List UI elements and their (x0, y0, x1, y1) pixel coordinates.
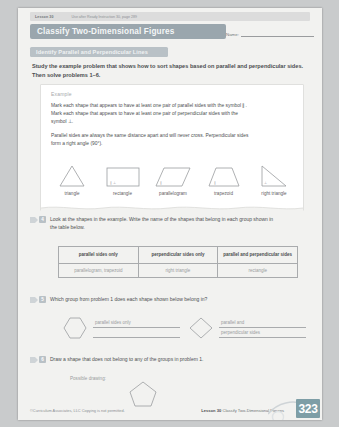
shape-trapezoid: ∥ trapezoid (201, 163, 247, 196)
chevron-right-icon (30, 217, 39, 224)
problem-4-text: Look at the shapes in the example. Write… (50, 216, 280, 231)
example-paragraph-1: Mark each shape that appears to have at … (51, 102, 251, 126)
problem-5: 5 Which group from problem 1 does each s… (30, 296, 260, 304)
shape-parallelogram: ∥ parallelogram (150, 163, 196, 196)
worksheet-page: Lesson 30 Use after Ready Instruction 30… (18, 8, 322, 420)
lesson-tag: Lesson 30 (35, 15, 53, 19)
possible-drawing-label: Possible drawing: (70, 376, 106, 381)
section-band-label: Identify Parallel and Perpendicular Line… (36, 49, 148, 55)
example-card: Example Mark each shape that appears to … (40, 84, 304, 211)
page-title: Classify Two-Dimensional Figures (37, 27, 175, 36)
problem-6-text: Draw a shape that does not belong to any… (50, 356, 203, 364)
problem-number: 6 (39, 356, 46, 363)
chevron-right-icon (30, 297, 39, 304)
lesson-note: Use after Ready Instruction 30, page 289 (71, 15, 137, 19)
shape-caption: trapezoid (201, 191, 247, 196)
example-shapes-row: triangle ∥ ⊥ rectangle ∥ parallelogram (49, 163, 297, 207)
table-answer-cell[interactable]: parallelogram, trapezoid (59, 264, 139, 278)
problem-5-answers: parallel sides only parallel and perpend… (62, 316, 307, 340)
intro-text: Study the example problem that shows how… (32, 62, 304, 79)
shape-triangle: triangle (49, 163, 95, 196)
problem-number: 4 (39, 216, 46, 223)
name-input-line[interactable] (241, 30, 314, 37)
rectangle-icon: ∥ ⊥ (104, 163, 142, 189)
problem-6: 6 Draw a shape that does not belong to a… (30, 356, 260, 364)
example-body: Mark each shape that appears to have at … (51, 102, 251, 154)
classification-table: parallel sides only perpendicular sides … (58, 246, 298, 278)
answer-line[interactable]: parallel and (219, 318, 306, 328)
section-band: Identify Parallel and Perpendicular Line… (30, 47, 168, 57)
answer-lines[interactable]: parallel and perpendicular sides (219, 316, 306, 338)
triangle-icon (57, 163, 87, 189)
table-row: parallelogram, trapezoid right triangle … (59, 264, 298, 278)
answer-line[interactable] (93, 328, 180, 338)
right-triangle-icon: ⊥ (258, 163, 290, 189)
name-label: Name: (226, 32, 239, 37)
table-header-cell: parallel sides only (59, 247, 139, 264)
shape-caption: rectangle (100, 191, 146, 196)
shape-caption: parallelogram (150, 191, 196, 196)
problem-5-item-rhombus: parallel and perpendicular sides (188, 316, 306, 340)
trapezoid-icon: ∥ (206, 163, 242, 189)
parallelogram-icon: ∥ (154, 163, 192, 189)
answer-line[interactable]: parallel sides only (93, 318, 180, 328)
problem-5-item-hexagon: parallel sides only (62, 316, 180, 340)
shape-caption: right triangle (251, 191, 297, 196)
answer-line[interactable]: perpendicular sides (219, 328, 306, 338)
copyright-text: ©Curriculum Associates, LLC Copying is n… (30, 408, 125, 413)
chevron-right-icon (30, 357, 39, 364)
table-header-row: parallel sides only perpendicular sides … (59, 247, 298, 264)
table-answer-cell[interactable]: right triangle (138, 264, 218, 278)
name-field-group: Name: (226, 30, 314, 37)
lesson-strip: Lesson 30 Use after Ready Instruction 30… (30, 12, 310, 21)
torn-edge-decoration (41, 205, 303, 213)
problem-4: 4 Look at the shapes in the example. Wri… (30, 216, 280, 231)
problem-5-text: Which group from problem 1 does each sha… (50, 296, 207, 304)
example-paragraph-2: Parallel sides are always the same dista… (51, 132, 251, 148)
answer-lines[interactable]: parallel sides only (93, 316, 180, 338)
footer-lesson-label: Lesson 30 (201, 408, 221, 413)
table-header-cell: parallel and perpendicular sides (218, 247, 298, 264)
page-number-badge: 323 (296, 399, 320, 418)
trapezoid-marks: ∥ (214, 181, 216, 185)
shape-right-triangle: ⊥ right triangle (251, 163, 297, 196)
pentagon-icon[interactable] (128, 380, 158, 408)
hexagon-icon (62, 316, 88, 340)
page-title-bar: Classify Two-Dimensional Figures (30, 24, 226, 39)
table-header-cell: perpendicular sides only (138, 247, 218, 264)
table-answer-cell[interactable]: rectangle (218, 264, 298, 278)
rectangle-marks: ∥ ⊥ (110, 181, 116, 185)
parallelogram-marks: ∥ (160, 181, 162, 185)
shape-rectangle: ∥ ⊥ rectangle (100, 163, 146, 196)
shape-caption: triangle (49, 191, 95, 196)
rhombus-icon (188, 316, 214, 340)
right-triangle-marks: ⊥ (264, 181, 267, 185)
problem-number: 5 (39, 296, 46, 303)
example-label: Example (51, 91, 72, 97)
